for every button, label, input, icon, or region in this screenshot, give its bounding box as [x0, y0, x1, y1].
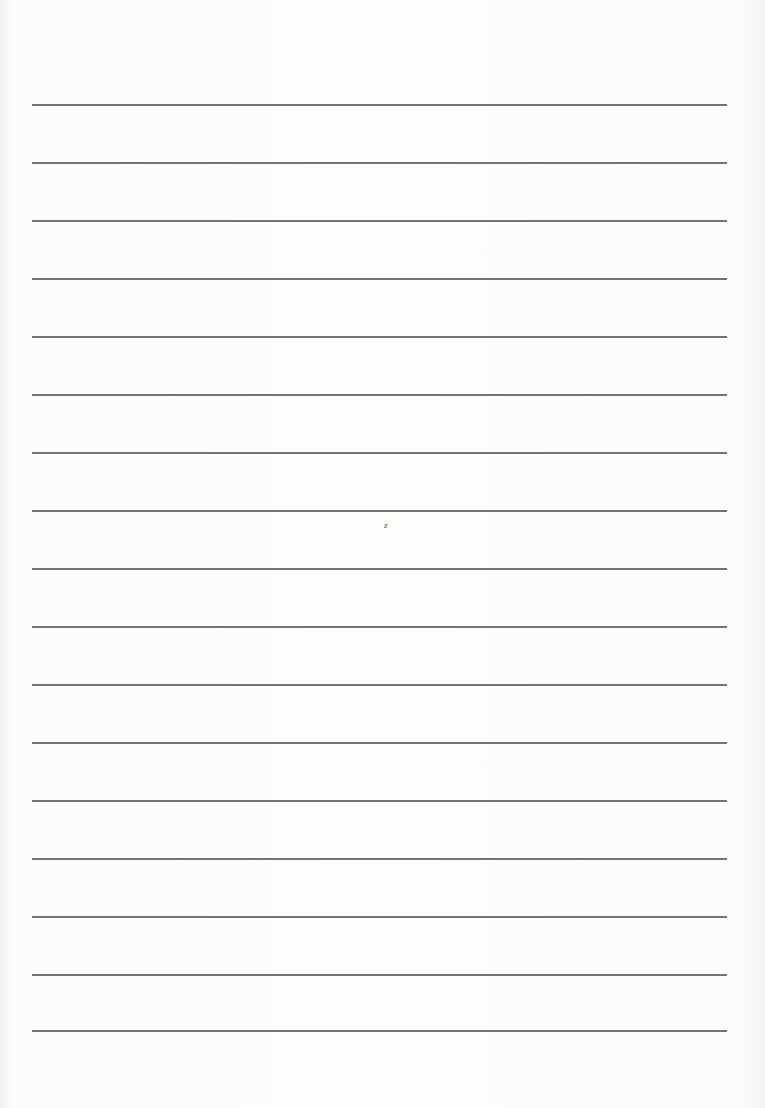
ruled-line [32, 394, 727, 396]
ruled-line [32, 510, 727, 512]
ruled-line [32, 684, 727, 686]
ruled-line [32, 336, 727, 338]
ruled-line [32, 1030, 727, 1032]
ruled-line [32, 220, 727, 222]
ruled-line [32, 104, 727, 106]
ruled-line [32, 800, 727, 802]
ruled-line [32, 278, 727, 280]
lined-page: z [0, 0, 765, 1108]
ruled-line [32, 452, 727, 454]
stray-mark: z [384, 520, 388, 530]
ruled-line [32, 742, 727, 744]
ruled-line [32, 626, 727, 628]
ruled-line [32, 916, 727, 918]
ruled-line [32, 974, 727, 976]
ruled-line [32, 568, 727, 570]
ruled-line [32, 858, 727, 860]
ruled-line [32, 162, 727, 164]
